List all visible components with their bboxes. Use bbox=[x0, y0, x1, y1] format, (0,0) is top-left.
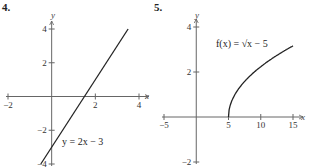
x-tick-label: 15 bbox=[289, 120, 299, 130]
x-tick-label: −5 bbox=[159, 120, 169, 130]
y-tick-label: 2 bbox=[42, 58, 47, 68]
x-tick-label: 5 bbox=[226, 120, 231, 130]
y-tick-label: −2 bbox=[37, 125, 47, 135]
chart-4-annotation: y = 2x − 3 bbox=[62, 136, 103, 147]
y-tick-label: 2 bbox=[187, 67, 192, 77]
chart-4-y-axis-label: y bbox=[50, 10, 55, 20]
y-tick-label: −2 bbox=[182, 157, 192, 167]
series-line bbox=[229, 46, 294, 117]
chart-5: 5. y x f(x) = √x − 5 −55101542−2 bbox=[154, 1, 305, 167]
chart-5-y-axis-label: y bbox=[194, 10, 199, 20]
y-tick-label: 4 bbox=[187, 22, 192, 32]
y-tick-label: −4 bbox=[37, 159, 47, 168]
x-tick-label: 10 bbox=[256, 120, 266, 130]
chart-4-number: 4. bbox=[2, 1, 11, 13]
chart-5-number: 5. bbox=[154, 1, 163, 13]
x-tick-label: −2 bbox=[3, 100, 13, 110]
x-tick-label: 4 bbox=[137, 100, 142, 110]
chart-4: 4. y x y = 2x − 3 −22442−2−4 bbox=[2, 1, 149, 168]
y-tick-label: 4 bbox=[42, 24, 47, 34]
chart-5-annotation: f(x) = √x − 5 bbox=[216, 38, 268, 50]
charts-canvas: 4. y x y = 2x − 3 −22442−2−4 5. y x f(x)… bbox=[0, 0, 310, 168]
x-tick-label: 2 bbox=[93, 100, 98, 110]
